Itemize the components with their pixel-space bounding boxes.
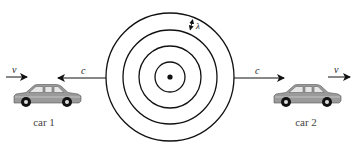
wave-speed-label-left: c xyxy=(81,65,86,76)
doppler-diagram: λ c c v v car 1 car 2 xyxy=(0,0,355,151)
source-dot xyxy=(167,74,172,79)
car1-velocity-label: v xyxy=(12,64,17,75)
car2-icon xyxy=(274,85,341,108)
car1-icon xyxy=(14,85,81,108)
wavelength-arrow xyxy=(190,20,192,30)
wave-speed-label-right: c xyxy=(255,65,260,76)
car1-label: car 1 xyxy=(33,116,55,128)
car2-label: car 2 xyxy=(295,116,317,128)
wavelength-label: λ xyxy=(195,21,200,31)
car2-velocity-label: v xyxy=(334,64,339,75)
